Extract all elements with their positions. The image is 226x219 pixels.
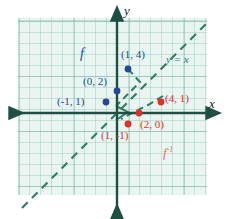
function-f-curve bbox=[116, 69, 140, 106]
identity-line-label: y = x bbox=[166, 54, 189, 65]
point-1-4 bbox=[125, 66, 132, 73]
inverse-function-graph-figure: y x f f-1 y = x (1, 4) (0, 2) (-1, 1) (4… bbox=[0, 0, 226, 219]
label-point-1-4: (1, 4) bbox=[121, 49, 145, 60]
label-point-neg1-1: (-1, 1) bbox=[57, 96, 85, 107]
point-neg1-1 bbox=[103, 99, 110, 106]
label-point-0-2: (0, 2) bbox=[83, 76, 107, 87]
point-0-2 bbox=[114, 88, 121, 95]
inverse-function-exponent: -1 bbox=[167, 145, 174, 154]
label-point-2-0: (2, 0) bbox=[140, 119, 164, 130]
point-1-neg1 bbox=[125, 121, 132, 128]
label-point-1-neg1: (1, -1) bbox=[101, 130, 129, 141]
x-axis-label: x bbox=[209, 97, 215, 110]
identity-line-y-equals-x bbox=[22, 24, 206, 208]
point-2-0 bbox=[136, 110, 143, 117]
function-f-label: f bbox=[80, 47, 84, 61]
graph-overlay bbox=[0, 0, 226, 219]
point-4-1 bbox=[158, 99, 165, 106]
y-axis-label: y bbox=[124, 4, 130, 17]
inverse-function-label: f-1 bbox=[163, 146, 173, 159]
label-point-4-1: (4, 1) bbox=[165, 93, 189, 104]
